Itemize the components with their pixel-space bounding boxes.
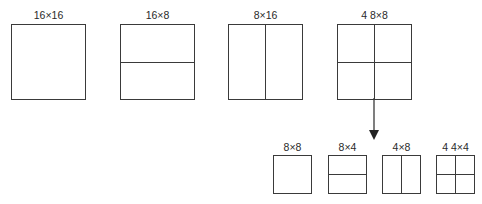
label-4-8x8: 4 8×8: [337, 9, 412, 21]
block-4-4x4: [436, 155, 475, 194]
horizontal-split-line: [329, 174, 366, 175]
block-16x8: [120, 24, 195, 100]
block-8x4: [328, 155, 367, 194]
block-4-8x8: [337, 24, 412, 100]
horizontal-split-line: [121, 62, 194, 63]
label-16x8: 16×8: [120, 9, 195, 21]
label-8x4: 8×4: [328, 141, 367, 153]
block-16x16: [11, 24, 86, 100]
label-16x16: 16×16: [11, 9, 86, 21]
label-4x8: 4×8: [382, 141, 421, 153]
label-8x8: 8×8: [273, 141, 312, 153]
vertical-split-line: [455, 156, 456, 193]
block-4x8: [382, 155, 421, 194]
arrow-down-icon: [366, 98, 382, 142]
label-4-4x4: 4 4×4: [436, 141, 475, 153]
label-8x16: 8×16: [228, 9, 303, 21]
vertical-split-line: [374, 25, 375, 99]
vertical-split-line: [401, 156, 402, 193]
block-8x16: [228, 24, 303, 100]
block-8x8: [273, 155, 312, 194]
vertical-split-line: [265, 25, 266, 99]
